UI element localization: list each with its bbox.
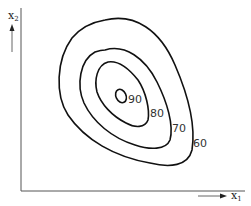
chart-canvas: x2 x1 90 80 70 60 — [0, 0, 251, 206]
contour-label-60: 60 — [193, 137, 207, 150]
x-arrow-head-icon — [220, 194, 227, 199]
contour-label-90: 90 — [128, 93, 142, 106]
contour-90 — [114, 88, 129, 105]
contour-lines — [59, 18, 193, 165]
contour-label-80: 80 — [150, 107, 164, 120]
contour-chart: x2 x1 90 80 70 60 — [0, 0, 251, 206]
y-axis-label: x2 — [8, 9, 19, 23]
contour-70 — [80, 49, 171, 149]
y-arrow-head-icon — [10, 24, 15, 31]
contour-label-70: 70 — [172, 122, 186, 135]
contour-60 — [59, 18, 193, 165]
